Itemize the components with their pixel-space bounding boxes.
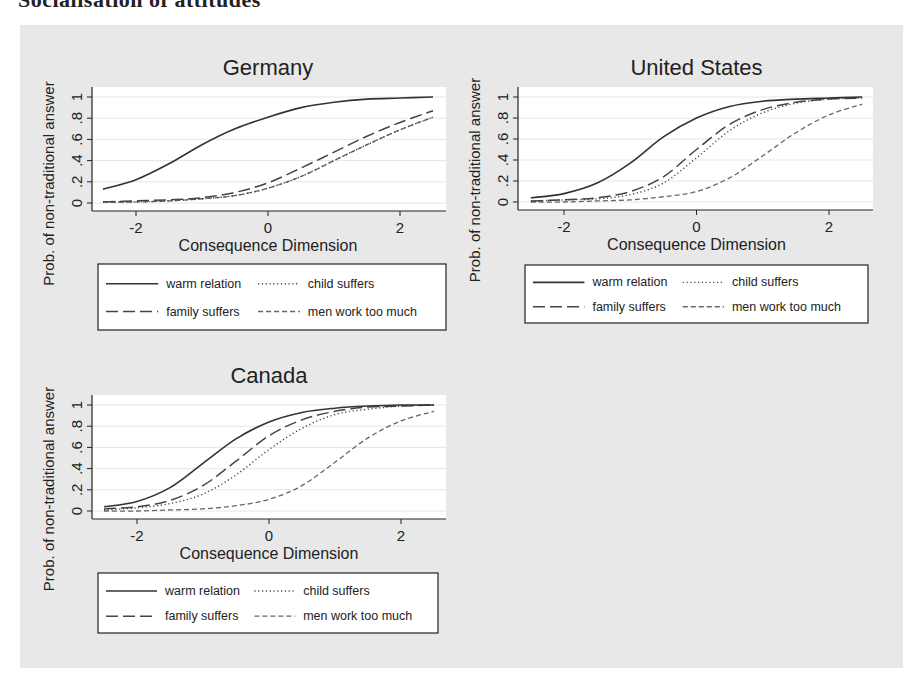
y-tick-label: .4 [68, 462, 85, 475]
legend-label-warm-relation: warm relation [164, 584, 240, 598]
legend-label-child-suffers: child suffers [303, 584, 369, 598]
x-tick-label: -2 [130, 527, 143, 544]
y-tick-label: .2 [68, 484, 85, 497]
legend-label-men-work-too-much: men work too much [303, 609, 412, 623]
chart-title: Canada [230, 363, 308, 388]
x-tick-label: 0 [265, 527, 273, 544]
x-axis-title: Consequence Dimension [180, 545, 359, 562]
y-axis-title: Prob. of non-traditional answer [40, 387, 57, 591]
y-tick-label: .8 [68, 420, 85, 433]
legend-box [98, 573, 438, 633]
chart-panel-canada: 0.2.4.6.81-202Consequence DimensionProb.… [0, 0, 924, 689]
plot-area [92, 395, 446, 519]
x-tick-label: 2 [397, 527, 405, 544]
legend-label-family-suffers: family suffers [165, 609, 238, 623]
legend: warm relationchild suffersfamily suffers… [98, 573, 438, 633]
y-tick-label: 1 [68, 401, 85, 409]
y-tick-label: .6 [68, 441, 85, 454]
y-tick-label: 0 [68, 507, 85, 515]
